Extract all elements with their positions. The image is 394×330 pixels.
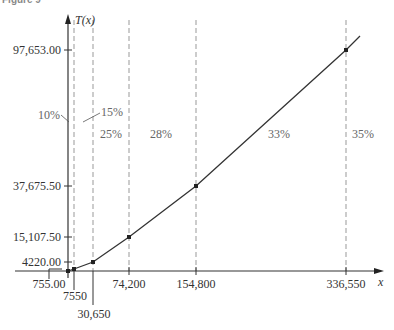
data-points [66, 48, 348, 273]
bracket-lines [74, 20, 346, 271]
rate-label: 25% [100, 127, 122, 141]
y-tick-label: 755.00 [33, 277, 66, 291]
x-tick-label: 336,550 [327, 277, 366, 291]
rate-label: 33% [268, 127, 290, 141]
x-tick-label: 154,800 [177, 277, 216, 291]
x-axis-label: x [377, 275, 384, 289]
y-axis-arrow-icon [65, 14, 71, 24]
rate-label: 10% [38, 108, 60, 122]
x-tick-label: 74,200 [113, 277, 146, 291]
x-tick-label: 7550 [63, 289, 87, 303]
y-tick-label: 37,675.50 [13, 179, 61, 193]
x-axis-arrow-icon [374, 268, 384, 274]
x-tick-label: 30,650 [78, 307, 111, 321]
y-tick-label: 4220.00 [22, 255, 61, 269]
y-axis-label: T(x) [75, 13, 95, 27]
tax-chart: 97,653.00 37,675.50 15,107.50 4220.00 75… [0, 0, 394, 330]
rate-label: 15% [101, 105, 123, 119]
rate-label: 35% [352, 127, 374, 141]
y-tick-label: 15,107.50 [13, 230, 61, 244]
rate-label: 28% [150, 127, 172, 141]
tax-curve [68, 36, 360, 271]
y-tick-label: 97,653.00 [13, 43, 61, 57]
